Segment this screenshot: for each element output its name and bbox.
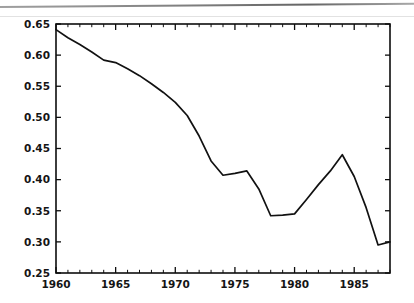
y-tick-label: 0.55 [24,80,50,92]
line-chart: 0.250.300.350.400.450.500.550.600.65 196… [0,0,414,303]
y-tick-label: 0.60 [24,49,50,61]
x-tick-label: 1985 [340,278,369,290]
chart-canvas: 0.250.300.350.400.450.500.550.600.65 196… [0,0,414,303]
y-tick-label: 0.65 [24,18,50,30]
x-tick-label: 1970 [161,278,190,290]
y-tick-label: 0.35 [24,205,50,217]
y-tick-label: 0.40 [24,173,50,185]
x-tick-label: 1975 [220,278,249,290]
y-axis-tick-labels: 0.250.300.350.400.450.500.550.600.65 [24,18,50,279]
y-tick-label: 0.30 [24,236,50,248]
x-axis-tick-labels: 196019651970197519801985 [41,278,368,290]
y-tick-label: 0.25 [24,267,50,279]
y-tick-label: 0.50 [24,111,50,123]
data-series-line [56,30,390,245]
y-tick-label: 0.45 [24,142,50,154]
x-tick-label: 1960 [41,278,70,290]
x-tick-label: 1965 [101,278,130,290]
x-tick-label: 1980 [280,278,309,290]
